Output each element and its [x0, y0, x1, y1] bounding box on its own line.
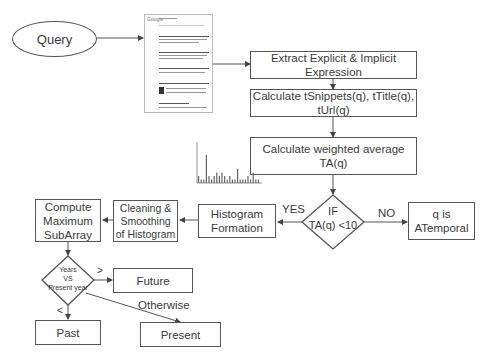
cleaning-smoothing-step: Cleaning & Smoothing of Histogram — [113, 200, 178, 242]
calculate-label: Calculate tSnippets(q), tTitle(q), tUrl(… — [251, 89, 416, 117]
future-outcome: Future — [113, 268, 193, 293]
present-year-label: Present year — [42, 283, 94, 292]
compute-max-subarray-step: Compute Maximum SubArray — [35, 199, 101, 242]
vs-label: VS — [42, 274, 94, 283]
cleaning-label-1: Cleaning & — [120, 202, 171, 215]
present-outcome: Present — [140, 322, 221, 347]
histogram-thumbnail — [190, 140, 265, 190]
histogram-formation-step: Histogram Formation — [198, 204, 276, 238]
less-than-label: < — [57, 305, 63, 316]
search-results-thumbnail: Google — [144, 14, 213, 113]
decision-condition-label: TA(q) <10 — [302, 218, 364, 232]
histogram-label-1: Histogram — [211, 207, 263, 221]
calculate-t-scores-step: Calculate tSnippets(q), tTitle(q), tUrl(… — [250, 89, 417, 117]
cleaning-label-2: Smoothing — [120, 215, 170, 228]
histogram-label-2: Formation — [211, 221, 263, 235]
ta-decision: IF TA(q) <10 — [302, 204, 364, 232]
cleaning-label-3: of Histogram — [116, 228, 176, 241]
compute-label-2: Maximum — [43, 214, 93, 228]
years-label: Years — [42, 265, 94, 274]
weighted-average-step: Calculate weighted average TA(q) — [250, 137, 417, 175]
atemporal-label-1: q is — [433, 207, 451, 221]
past-label: Past — [56, 326, 79, 340]
decision-if-label: IF — [302, 204, 364, 218]
query-start-node: Query — [12, 21, 97, 57]
extract-expression-step: Extract Explicit & Implicit Expression — [250, 51, 417, 79]
present-label: Present — [161, 328, 201, 342]
past-outcome: Past — [35, 320, 101, 345]
weighted-label-2: TA(q) — [320, 156, 348, 170]
years-decision: Years VS Present year — [42, 265, 94, 292]
extract-label: Extract Explicit & Implicit Expression — [251, 51, 416, 79]
greater-than-label: > — [97, 265, 103, 276]
query-label: Query — [37, 32, 72, 47]
atemporal-label-2: ATemporal — [414, 221, 468, 235]
future-label: Future — [136, 274, 169, 288]
weighted-label-1: Calculate weighted average — [263, 142, 405, 156]
no-label: NO — [378, 207, 395, 219]
compute-label-3: SubArray — [44, 228, 92, 242]
compute-label-1: Compute — [45, 200, 92, 214]
atemporal-outcome: q is ATemporal — [408, 202, 475, 240]
otherwise-label: Otherwise — [138, 299, 190, 311]
yes-label: YES — [282, 203, 305, 215]
